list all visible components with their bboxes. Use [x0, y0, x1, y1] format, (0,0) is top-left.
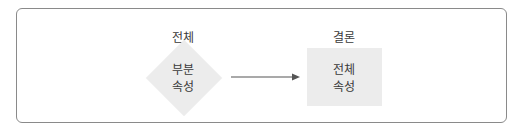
right-node-heading: 결론: [324, 31, 364, 45]
right-node-line-2: 속성: [319, 79, 369, 96]
left-node-line-1: 부분: [158, 62, 208, 79]
left-node-text: 부분 속성: [158, 62, 208, 96]
diagram-frame: [16, 8, 507, 123]
right-node-line-1: 전체: [319, 62, 369, 79]
left-node-line-2: 속성: [158, 79, 208, 96]
arrow-icon: [228, 71, 304, 83]
right-node-text: 전체 속성: [319, 62, 369, 96]
